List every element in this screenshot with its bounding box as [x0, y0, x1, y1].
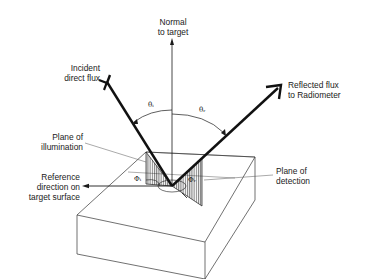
target-block	[77, 152, 255, 279]
plane-illumination-line2: illumination	[20, 142, 83, 152]
plane-detection-label: Plane of detection	[276, 166, 310, 186]
plane-detection-line1: Plane of	[276, 166, 310, 176]
theta-r-symbol: θᵣ	[199, 106, 206, 114]
reflected-label-line2: to Radiometer	[288, 90, 341, 100]
reflected-label-line1: Reflected flux	[288, 80, 341, 90]
phi-i-symbol: Φᵢ	[134, 175, 141, 183]
normal-label-line1: Normal	[150, 17, 196, 27]
reference-label: Reference direction on target surface	[10, 172, 80, 202]
incident-label: Incident direct flux	[48, 63, 100, 83]
illumination-leader	[85, 143, 146, 162]
incident-label-line1: Incident	[48, 63, 100, 73]
phi-r-symbol: Φᵣ	[188, 176, 196, 184]
reference-line2: direction on	[10, 182, 80, 192]
plane-illumination-line1: Plane of	[20, 132, 83, 142]
brdf-diagram: Normal to target Incident direct flux Re…	[0, 0, 365, 279]
incident-label-line2: direct flux	[48, 73, 100, 83]
theta-i-symbol: θᵢ	[148, 101, 154, 109]
plane-detection-line2: detection	[276, 176, 310, 186]
normal-label: Normal to target	[150, 17, 196, 37]
normal-label-line2: to target	[150, 27, 196, 37]
plane-illumination-label: Plane of illumination	[20, 132, 83, 152]
reference-line3: target surface	[10, 192, 80, 202]
reflected-label: Reflected flux to Radiometer	[288, 80, 341, 100]
reference-line1: Reference	[10, 172, 80, 182]
